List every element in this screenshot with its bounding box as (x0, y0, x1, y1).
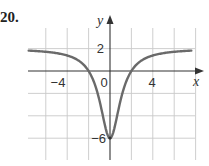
y-tick-label-2: 2 (97, 41, 104, 56)
y-axis-label: y (95, 13, 104, 28)
graph-figure: 20. x y −4 0 4 2 −6 (0, 0, 209, 166)
origin-label: 0 (100, 75, 107, 90)
x-axis (28, 68, 204, 75)
x-axis-label: x (192, 74, 200, 89)
problem-number: 20. (0, 9, 19, 25)
minimum-point (108, 136, 111, 139)
y-tick-label-neg6: −6 (91, 131, 106, 146)
grid-lines (28, 28, 196, 160)
x-tick-label-neg4: −4 (51, 75, 66, 90)
y-axis-arrow-icon (107, 15, 114, 24)
x-tick-label-4: 4 (148, 75, 155, 90)
